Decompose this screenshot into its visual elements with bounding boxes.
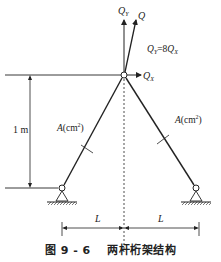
height-arrow-top <box>28 75 32 80</box>
height-arrow-bottom <box>28 183 32 188</box>
svg-text:QX: QX <box>143 70 154 82</box>
right-bar-area-label: A(cm2) <box>174 114 202 126</box>
svg-text:QY: QY <box>118 5 129 17</box>
q-arrow <box>125 20 136 72</box>
figure-number: 图 9 - 6 <box>45 244 91 257</box>
svg-text:Q: Q <box>138 10 146 21</box>
left-bar-area-label: A(cm2) <box>56 122 84 134</box>
right-bar <box>126 78 194 185</box>
figure-caption: 图 9 - 6 两杆桁架结构 <box>0 241 221 257</box>
q-label: Q <box>138 10 146 21</box>
height-label: 1 m <box>13 124 29 135</box>
span-right-label: L <box>157 213 164 224</box>
figure-title: 两杆桁架结构 <box>107 244 176 257</box>
truss-diagram: QY Q QX QY=8QX 1 m A(cm2) A(cm2) L L <box>0 0 221 262</box>
force-relation: QY=8QX <box>147 44 178 55</box>
span-left-label: L <box>94 213 101 224</box>
top-joint <box>121 72 127 78</box>
right-pin-support <box>181 185 211 205</box>
